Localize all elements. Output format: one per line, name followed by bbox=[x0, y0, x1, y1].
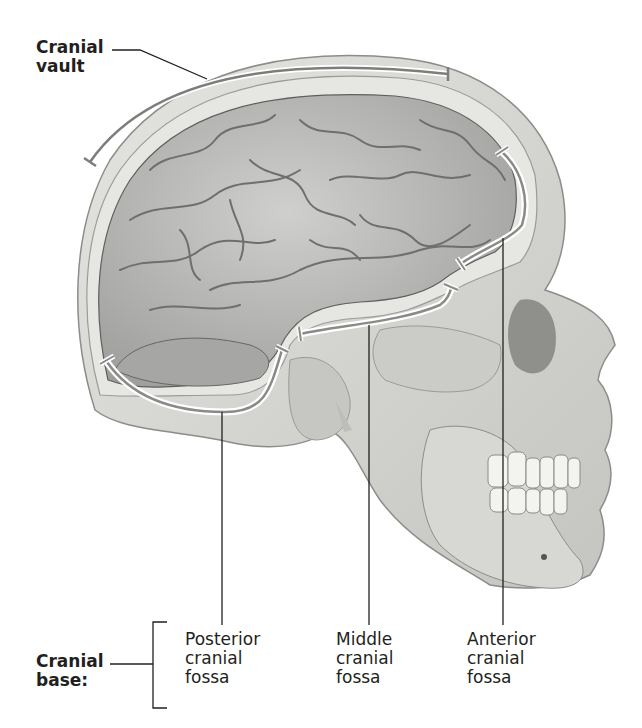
middle-cranial-fossa-label: Middle cranial fossa bbox=[336, 630, 393, 687]
cranial-base-bracket bbox=[153, 622, 167, 708]
anterior-cranial-fossa-label: Anterior cranial fossa bbox=[467, 630, 536, 687]
cranial-base-label: Cranial base: bbox=[36, 652, 104, 690]
teeth bbox=[488, 452, 580, 515]
cranium-diagram: Cranial vault Cranial base: Posterior cr… bbox=[0, 0, 642, 728]
posterior-cranial-fossa-label: Posterior cranial fossa bbox=[185, 630, 260, 687]
cranial-vault-label: Cranial vault bbox=[36, 38, 104, 76]
cranial-vault-leader bbox=[112, 50, 207, 79]
mental-foramen bbox=[541, 554, 547, 560]
skull-illustration bbox=[0, 0, 642, 728]
